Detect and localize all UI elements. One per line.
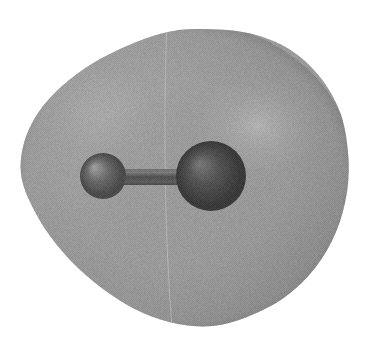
molecule-render-canvas[interactable]: [0, 0, 373, 339]
molecule-viewport[interactable]: Ball-and-stick model of a diatomic molec…: [0, 0, 373, 339]
